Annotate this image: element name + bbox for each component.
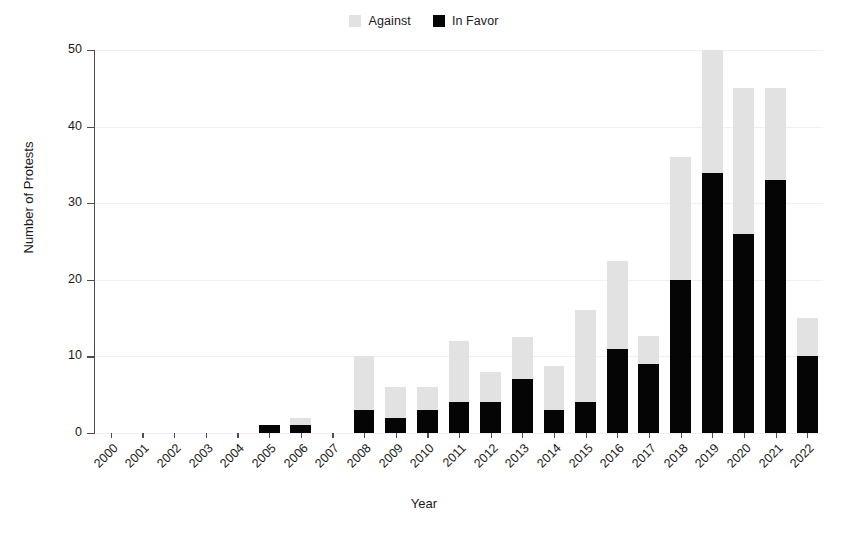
y-axis-title: Number of Protests [21, 98, 36, 298]
x-axis-tick-label: 2018 [652, 441, 690, 479]
x-axis-tick [459, 433, 460, 438]
legend-label-against: Against [368, 14, 410, 28]
y-axis-tick [87, 280, 95, 281]
x-axis-tick [301, 433, 302, 438]
y-axis-tick-label: 50 [48, 42, 82, 56]
x-axis-tick [427, 433, 428, 438]
x-axis-tick-label: 2003 [177, 441, 215, 479]
x-axis-tick [807, 433, 808, 438]
bar-segment-in-favor [702, 173, 723, 433]
y-axis-tick-label: 0 [48, 425, 82, 439]
y-axis-tick-label: 30 [48, 195, 82, 209]
x-axis-tick-label: 2020 [716, 441, 754, 479]
bar-segment-in-favor [385, 418, 406, 433]
x-axis-tick-label: 2022 [779, 441, 817, 479]
bar-2019 [702, 50, 723, 433]
x-axis-tick-label: 2006 [272, 441, 310, 479]
x-axis-tick-label: 2014 [526, 441, 564, 479]
x-axis-tick [142, 433, 143, 438]
x-axis-tick-label: 2000 [83, 441, 121, 479]
x-axis-tick [269, 433, 270, 438]
bar-segment-against [702, 50, 723, 173]
bar-segment-against [733, 88, 754, 234]
y-axis-tick-label: 40 [48, 119, 82, 133]
bar-segment-in-favor [480, 402, 501, 433]
bar-2016 [607, 261, 628, 433]
x-axis-tick [364, 433, 365, 438]
bar-segment-against [670, 157, 691, 280]
legend-entry-against: Against [349, 14, 410, 28]
x-axis-tick [237, 433, 238, 438]
x-axis-tick-label: 2008 [336, 441, 374, 479]
x-axis-tick [744, 433, 745, 438]
x-axis-tick [206, 433, 207, 438]
y-axis-tick-label: 20 [48, 272, 82, 286]
bar-2014 [544, 366, 565, 433]
bar-segment-against [797, 318, 818, 356]
x-axis-tick [776, 433, 777, 438]
bar-2008 [354, 356, 375, 433]
x-axis-tick [649, 433, 650, 438]
bar-segment-in-favor [638, 364, 659, 433]
bar-segment-in-favor [417, 410, 438, 433]
bar-2011 [449, 341, 470, 433]
bar-segment-against [544, 366, 565, 410]
x-axis-tick-label: 2010 [399, 441, 437, 479]
bar-segment-in-favor [512, 379, 533, 433]
y-axis-tick [87, 433, 95, 434]
y-axis-tick [87, 127, 95, 128]
x-axis-tick-label: 2016 [589, 441, 627, 479]
x-axis-tick [586, 433, 587, 438]
bar-segment-against [575, 310, 596, 402]
x-axis-tick-label: 2001 [114, 441, 152, 479]
bar-2013 [512, 337, 533, 433]
bar-2015 [575, 310, 596, 433]
y-axis-tick [87, 50, 95, 51]
x-axis-tick [712, 433, 713, 438]
bar-2006 [290, 418, 311, 433]
x-axis-tick [174, 433, 175, 438]
bar-segment-against [449, 341, 470, 402]
bar-segment-in-favor [354, 410, 375, 433]
bar-2018 [670, 157, 691, 433]
bar-segment-against [417, 387, 438, 410]
bar-segment-against [638, 336, 659, 364]
legend-label-in-favor: In Favor [452, 14, 499, 28]
bar-2020 [733, 88, 754, 433]
bar-2009 [385, 387, 406, 433]
bar-2022 [797, 318, 818, 433]
bar-2010 [417, 387, 438, 433]
chart-legend: Against In Favor [0, 14, 848, 28]
bar-segment-in-favor [290, 425, 311, 433]
bar-segment-in-favor [575, 402, 596, 433]
y-axis-tick [87, 203, 95, 204]
x-axis-tick [491, 433, 492, 438]
x-axis-tick-label: 2009 [367, 441, 405, 479]
x-axis-tick-label: 2019 [684, 441, 722, 479]
bar-segment-against [354, 356, 375, 410]
x-axis-tick-label: 2005 [241, 441, 279, 479]
x-axis-tick [111, 433, 112, 438]
bar-segment-in-favor [607, 349, 628, 433]
bar-segment-in-favor [259, 425, 280, 433]
x-axis-tick-label: 2011 [431, 441, 469, 479]
bar-segment-against [385, 387, 406, 418]
bar-2005 [259, 425, 280, 433]
x-axis-tick-label: 2015 [557, 441, 595, 479]
bar-segment-in-favor [765, 180, 786, 433]
bar-2012 [480, 372, 501, 433]
bar-segment-against [607, 261, 628, 349]
bar-segment-against [512, 337, 533, 379]
bar-segment-against [480, 372, 501, 403]
y-axis-tick [87, 356, 95, 357]
bar-segment-in-favor [670, 280, 691, 433]
x-axis-tick [681, 433, 682, 438]
bar-segment-in-favor [544, 410, 565, 433]
x-axis-tick [617, 433, 618, 438]
bar-segment-against [290, 418, 311, 426]
bar-segment-against [765, 88, 786, 180]
bar-segment-in-favor [797, 356, 818, 433]
x-axis-tick-label: 2007 [304, 441, 342, 479]
legend-entry-in-favor: In Favor [433, 14, 499, 28]
protests-stacked-bar-chart: Against In Favor 01020304050 20002001200… [0, 0, 848, 533]
